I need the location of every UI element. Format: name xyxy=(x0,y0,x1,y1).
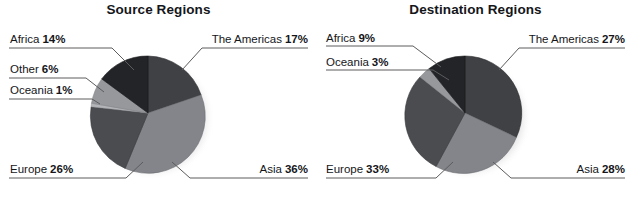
source-label-americas-region: The Americas xyxy=(212,33,282,45)
destination-label-oceania-region: Oceania xyxy=(326,56,369,68)
destination-label-americas-pct: 27% xyxy=(602,33,625,45)
source-label-europe-region: Europe xyxy=(10,163,47,175)
source-leader-americas xyxy=(182,48,308,70)
destination-label-europe-region: Europe xyxy=(326,163,363,175)
destination-label-asia-pct: 28% xyxy=(602,163,625,175)
destination-leader-americas xyxy=(499,48,625,70)
source-label-oceania-region: Oceania xyxy=(10,84,53,96)
destination-regions-panel: Destination Regions xyxy=(317,0,634,199)
source-label-americas-pct: 17% xyxy=(285,33,308,45)
destination-label-oceania-pct: 3% xyxy=(372,56,389,68)
source-label-africa: Africa14% xyxy=(10,33,65,46)
source-label-other: Other6% xyxy=(10,63,58,76)
destination-label-africa: Africa9% xyxy=(326,32,375,45)
source-regions-panel: Source Regions xyxy=(0,0,317,199)
source-label-europe-pct: 26% xyxy=(50,163,73,175)
destination-label-asia-region: Asia xyxy=(577,163,599,175)
destination-label-europe: Europe33% xyxy=(326,163,389,176)
source-label-americas: The Americas17% xyxy=(212,33,308,46)
source-label-africa-region: Africa xyxy=(10,33,39,45)
pie-chart-figure: Source Regions xyxy=(0,0,634,199)
destination-label-africa-pct: 9% xyxy=(358,32,375,44)
destination-label-oceania: Oceania3% xyxy=(326,56,388,69)
destination-label-europe-pct: 33% xyxy=(366,163,389,175)
source-label-asia-region: Asia xyxy=(260,163,282,175)
source-label-africa-pct: 14% xyxy=(42,33,65,45)
source-pie-wrap: Africa14% Other6% Oceania1% Europe26% Th… xyxy=(0,0,317,199)
source-label-asia-pct: 36% xyxy=(285,163,308,175)
destination-label-americas-region: The Americas xyxy=(529,33,599,45)
destination-label-asia: Asia28% xyxy=(577,163,625,176)
source-leader-oceania xyxy=(9,99,100,104)
destination-label-africa-region: Africa xyxy=(326,32,355,44)
destination-label-americas: The Americas27% xyxy=(529,33,625,46)
source-label-oceania-pct: 1% xyxy=(56,84,73,96)
source-label-other-pct: 6% xyxy=(42,63,59,75)
source-label-other-region: Other xyxy=(10,63,39,75)
destination-pie-wrap: Africa9% Oceania3% Europe33% The America… xyxy=(317,0,634,199)
source-label-asia: Asia36% xyxy=(260,163,308,176)
source-label-europe: Europe26% xyxy=(10,163,73,176)
source-label-oceania: Oceania1% xyxy=(10,84,72,97)
